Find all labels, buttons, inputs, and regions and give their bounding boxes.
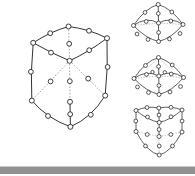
node-midpoint (143, 11, 147, 15)
node-midpoint (29, 69, 34, 74)
node-corner (67, 58, 72, 63)
node-corner (132, 77, 136, 81)
node-midpoint (180, 119, 184, 123)
edge-bottom-front-left (32, 101, 71, 127)
node-corner (157, 135, 161, 139)
node-midpoint (68, 112, 73, 117)
node-corner (103, 93, 108, 98)
node-corner (157, 93, 161, 97)
node-midpoint (170, 63, 174, 67)
node-corner (134, 130, 138, 134)
node-midpoint (48, 31, 53, 36)
node-midpoint (87, 28, 92, 33)
node-midpoint (170, 10, 174, 14)
node-midpoint (49, 50, 54, 55)
large-cube-drawing (29, 24, 111, 129)
node-corner (181, 23, 185, 27)
node-midpoint (157, 128, 161, 132)
node-midpoint (145, 133, 149, 137)
node-midpoint (135, 32, 139, 36)
node-midpoint (87, 48, 92, 53)
node-corner (68, 99, 73, 104)
node-corner (180, 130, 184, 134)
node-corner (105, 36, 110, 41)
node-corner (157, 74, 161, 78)
node-midpoint (144, 144, 148, 148)
node-midpoint (146, 38, 150, 42)
node-midpoint (147, 91, 151, 95)
node-midpoint (145, 73, 149, 77)
node-midpoint (178, 32, 182, 36)
node-corner (157, 121, 161, 125)
node-midpoint (169, 115, 173, 119)
node-midpoint (157, 84, 161, 88)
node-midpoint (67, 79, 72, 84)
node-midpoint (48, 79, 53, 84)
node-corner (29, 98, 34, 103)
node-midpoint (157, 31, 161, 35)
node-corner (157, 40, 161, 44)
cube-graph-figure (0, 0, 195, 176)
node-midpoint (157, 113, 161, 117)
node-midpoint (136, 85, 140, 89)
cube-corner-view-lower (134, 105, 184, 157)
page-edge-band (0, 167, 195, 174)
node-corner (157, 106, 161, 110)
node-corner (180, 108, 184, 112)
node-corner (156, 3, 160, 7)
node-corner (66, 24, 71, 29)
node-midpoint (169, 72, 173, 76)
node-midpoint (156, 12, 160, 16)
node-midpoint (46, 114, 51, 119)
node-midpoint (168, 90, 172, 94)
node-midpoint (86, 76, 91, 81)
node-midpoint (144, 64, 148, 68)
node-corner (134, 109, 138, 113)
node-midpoint (171, 144, 175, 148)
node-midpoint (88, 112, 93, 117)
node-midpoint (145, 106, 149, 110)
node-inner (163, 71, 166, 74)
node-midpoint (168, 37, 172, 41)
large-cube-hidden-edges (32, 27, 105, 102)
node-corner (31, 40, 36, 45)
node-inner (151, 70, 154, 73)
node-midpoint (169, 133, 173, 137)
large-cube-midpoint-nodes (29, 28, 111, 118)
node-midpoint (179, 85, 183, 89)
edge-bottom-front-right (70, 96, 105, 127)
node-corner (157, 56, 161, 60)
node-midpoint (67, 41, 72, 46)
node-midpoint (105, 65, 110, 70)
node-corner (132, 24, 136, 28)
node-midpoint (146, 115, 150, 119)
lower-nodes (134, 105, 184, 157)
node-corner (157, 153, 161, 157)
node-midpoint (169, 105, 173, 109)
figure-container (0, 0, 195, 176)
node-midpoint (169, 19, 173, 23)
cube-diagonal-view-middle (132, 56, 186, 97)
node-midpoint (134, 119, 138, 123)
node-midpoint (144, 20, 148, 24)
node-midpoint (157, 65, 161, 69)
cube-diagonal-view-upper (132, 3, 186, 44)
node-midpoint (157, 144, 161, 148)
node-corner (68, 124, 73, 129)
node-corner (182, 76, 186, 80)
node-corner (157, 21, 161, 25)
